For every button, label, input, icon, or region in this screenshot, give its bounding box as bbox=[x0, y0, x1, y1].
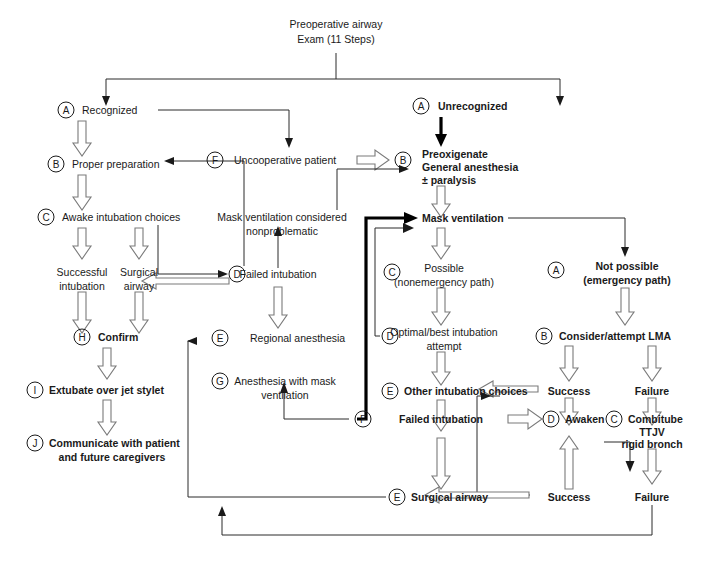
node-successful-intubation-line2: intubation bbox=[59, 280, 105, 292]
node-surgical-airway-right: E Surgical airway bbox=[389, 489, 488, 505]
node-communicate: J Communicate with patient and future ca… bbox=[27, 435, 180, 463]
node-regional-anesthesia: E Regional anesthesia bbox=[212, 330, 345, 346]
badge-i-extubate-letter: I bbox=[34, 385, 37, 396]
node-confirm-label: Confirm bbox=[98, 331, 138, 343]
node-consider-attempt-lma: B Consider/attempt LMA bbox=[536, 328, 671, 344]
node-preoperative-exam: Preoperative airway Exam (11 Steps) bbox=[290, 18, 384, 45]
connector-failed-to-regional bbox=[269, 287, 287, 328]
node-optimal-line2: attempt bbox=[426, 340, 461, 352]
connector-successful-to-confirm bbox=[73, 292, 91, 333]
node-extubate-label: Extubate over jet stylet bbox=[49, 384, 164, 396]
connector-combitube-to-failure bbox=[643, 449, 661, 484]
badge-f-uncooperative-letter: F bbox=[212, 155, 218, 166]
node-uncooperative-patient: F Uncooperative patient bbox=[207, 152, 336, 168]
node-combitube-failure-label: Failure bbox=[635, 491, 670, 503]
connector-lma-to-failure bbox=[643, 346, 661, 381]
node-preoxigenate-line3: ± paralysis bbox=[422, 174, 476, 186]
connector-confirm-to-extubate bbox=[98, 348, 116, 379]
connector-lma-to-success bbox=[560, 346, 578, 381]
connector-bottom-failure-to-surgical-airway bbox=[218, 505, 652, 535]
node-combitube-success: Success bbox=[548, 491, 591, 503]
node-d-failed-intubation: D Failed intubation bbox=[229, 266, 317, 282]
connector-failed-to-awaken bbox=[508, 409, 542, 429]
node-uncooperative-patient-label: Uncooperative patient bbox=[234, 154, 336, 166]
node-lma-success: Success bbox=[548, 385, 591, 397]
node-extubate-over-jet-stylet: I Extubate over jet stylet bbox=[27, 382, 164, 398]
badge-c-awake-choices-letter: C bbox=[42, 212, 49, 223]
node-mask-ventilation: Mask ventilation bbox=[422, 212, 504, 224]
connector-unrecognized-to-preoxigenate bbox=[435, 117, 447, 147]
node-possible-nonemergency: C Possible (nonemergency path) bbox=[384, 262, 494, 288]
node-mask-ventilation-nonproblematic: Mask ventilation considered nonproblemat… bbox=[217, 211, 347, 237]
node-combitube: C Combitube TTJV rigid bronch bbox=[606, 411, 683, 450]
connector-surgical-airway-to-confirm bbox=[187, 337, 386, 497]
badge-j-communicate-letter: J bbox=[33, 438, 38, 449]
node-anesthesia-mask-line2: ventilation bbox=[261, 389, 308, 401]
airway-algorithm-diagram: Preoperative airway Exam (11 Steps) A Re… bbox=[0, 0, 708, 564]
connector-mask-vent-to-not-possible bbox=[508, 218, 629, 257]
node-communicate-line1: Communicate with patient bbox=[49, 437, 180, 449]
badge-b-proper-preparation-letter: B bbox=[53, 159, 60, 170]
node-recognized: A Recognized bbox=[58, 102, 138, 118]
node-combitube-success-label: Success bbox=[548, 491, 591, 503]
badge-a-not-possible-letter: A bbox=[553, 265, 560, 276]
node-optimal-best-attempt: D Optimal/best intubation attempt bbox=[382, 326, 498, 352]
node-nonproblematic-line2: nonproblematic bbox=[246, 225, 318, 237]
root-line1: Preoperative airway bbox=[290, 18, 384, 30]
node-nonproblematic-line1: Mask ventilation considered bbox=[217, 211, 347, 223]
node-surgical-airway-left-line2: airway bbox=[124, 280, 155, 292]
node-combitube-line1: Combitube bbox=[628, 413, 683, 425]
badge-a-recognized-letter: A bbox=[63, 105, 70, 116]
node-confirm: H Confirm bbox=[74, 329, 138, 345]
root-line2: Exam (11 Steps) bbox=[297, 33, 374, 45]
badge-g-anesthesia-mask-letter: G bbox=[216, 376, 224, 387]
connector-surgical-success-to-other-choices bbox=[477, 392, 530, 495]
node-successful-intubation: Successful intubation bbox=[57, 266, 108, 292]
badge-b-preoxigenate-letter: B bbox=[400, 155, 407, 166]
connector-recognized-to-uncooperative bbox=[158, 110, 293, 148]
node-lma-failure: Failure bbox=[635, 385, 670, 397]
node-not-possible-emergency: A Not possible (emergency path) bbox=[548, 260, 671, 286]
connector-surgical-left-to-confirm bbox=[130, 292, 148, 333]
badge-a-unrecognized-letter: A bbox=[418, 101, 425, 112]
node-regional-anesthesia-label: Regional anesthesia bbox=[250, 332, 345, 344]
badge-d-awaken-letter: D bbox=[547, 414, 554, 425]
node-unrecognized: A Unrecognized bbox=[413, 98, 507, 114]
connector-nonproblematic-to-preoxigenate bbox=[337, 165, 409, 210]
node-communicate-line2: and future caregivers bbox=[59, 451, 166, 463]
badge-c-combitube-letter: C bbox=[610, 414, 617, 425]
connector-possible-to-optimal bbox=[432, 288, 450, 325]
node-anesthesia-with-mask-ventilation: G Anesthesia with mask ventilation bbox=[212, 373, 337, 401]
connector-awake-to-successful bbox=[73, 228, 91, 259]
node-not-possible-line1: Not possible bbox=[595, 260, 658, 272]
badge-e-other-choices-letter: E bbox=[387, 386, 394, 397]
node-possible-line1: Possible bbox=[424, 262, 464, 274]
node-preoxigenate: B Preoxigenate General anesthesia ± para… bbox=[395, 148, 518, 186]
node-f-failed-intubation-label: Failed intubation bbox=[399, 413, 483, 425]
node-surgical-airway-right-label: Surgical airway bbox=[411, 491, 488, 503]
connector-combitube-success-to-awaken bbox=[560, 436, 578, 489]
node-awaken-label: Awaken bbox=[565, 413, 605, 425]
node-recognized-label: Recognized bbox=[82, 104, 138, 116]
node-awake-intubation-choices: C Awake intubation choices bbox=[38, 209, 180, 225]
node-combitube-line2: TTJV bbox=[639, 426, 665, 438]
connector-optimal-to-other-choices bbox=[432, 352, 450, 385]
node-possible-line2: (nonemergency path) bbox=[394, 276, 494, 288]
node-optimal-line1: Optimal/best intubation bbox=[390, 326, 498, 338]
node-f-failed-intubation: F Failed intubation bbox=[355, 411, 483, 427]
flowchart-canvas: Preoperative airway Exam (11 Steps) A Re… bbox=[0, 0, 708, 564]
node-other-intubation-choices: E Other intubation choices bbox=[382, 383, 528, 399]
connector-awake-to-surgical-airway bbox=[130, 228, 148, 259]
badge-e-surgical-airway-letter: E bbox=[394, 492, 401, 503]
connector-extubate-to-communicate bbox=[98, 400, 116, 435]
badge-e-regional-letter: E bbox=[217, 333, 224, 344]
connector-failed-to-surgical-airway bbox=[432, 438, 450, 489]
node-awake-intubation-choices-label: Awake intubation choices bbox=[62, 211, 180, 223]
connector-recognized-to-proper-preparation bbox=[73, 121, 91, 156]
node-lma-success-label: Success bbox=[548, 385, 591, 397]
node-surgical-airway-left-line1: Surgical bbox=[120, 266, 158, 278]
node-consider-attempt-lma-label: Consider/attempt LMA bbox=[559, 330, 671, 342]
badge-b-lma-letter: B bbox=[541, 331, 548, 342]
node-awaken: D Awaken bbox=[543, 411, 605, 427]
node-proper-preparation-label: Proper preparation bbox=[72, 158, 160, 170]
